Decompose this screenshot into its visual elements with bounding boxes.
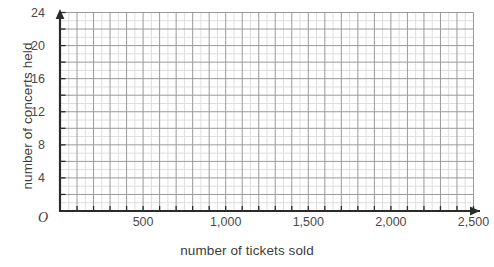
y-axis-arrowhead — [56, 9, 65, 19]
x-axis-title: number of tickets sold — [0, 243, 494, 258]
x-axis-tick-label: 500 — [113, 215, 173, 229]
y-axis-title: number of concerts held — [20, 6, 35, 226]
x-axis-tick-label: 1,000 — [196, 215, 256, 229]
x-axis-tick-label: 1,500 — [278, 215, 338, 229]
chart-container: 5001,0001,5002,0002,500 4812162024 O num… — [0, 0, 494, 267]
origin-label: O — [38, 210, 48, 226]
x-axis-tick-label: 2,000 — [361, 215, 421, 229]
x-axis-tick-label: 2,500 — [444, 215, 494, 229]
